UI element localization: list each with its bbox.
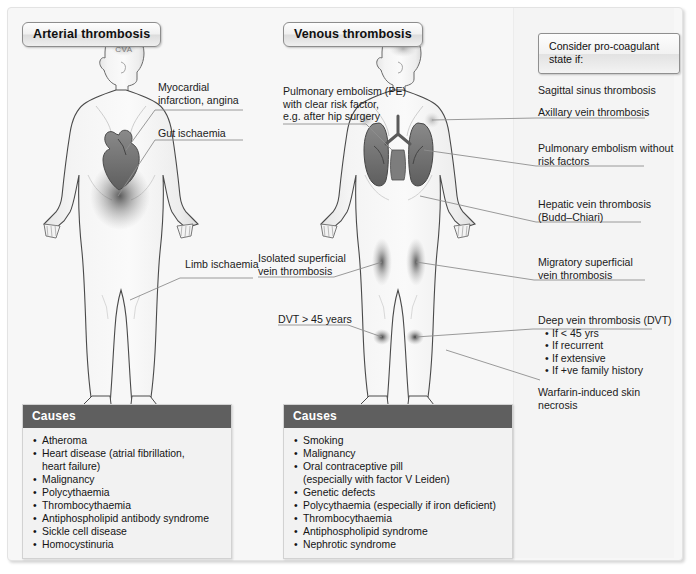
label-warfarin-induced-skin-necrosis: Warfarin-induced skin necrosis (538, 386, 640, 411)
causes-item: Oral contraceptive pill (294, 460, 506, 473)
dvt-list-item: If +ve family history (545, 364, 672, 377)
causes-item: Homocystinuria (33, 538, 225, 551)
causes-venous-list: Smoking Malignancy Oral contraceptive pi… (294, 434, 506, 551)
dvt-list: If < 45 yrs If recurrent If extensive If… (538, 327, 672, 377)
causes-arterial-body: Atheroma Heart disease (atrial fibrillat… (23, 428, 231, 558)
diagram-root: CVA (0, 0, 696, 574)
causes-item: Antiphospholipid antibody syndrome (33, 512, 225, 525)
dvt-list-item: If recurrent (545, 339, 672, 352)
causes-item: Malignancy (294, 447, 506, 460)
label-hepatic-vein-thrombosis: Hepatic vein thrombosis (Budd–Chiari) (538, 198, 651, 223)
header-arterial-thrombosis: Arterial thrombosis (22, 22, 161, 47)
header-venous-thrombosis: Venous thrombosis (283, 22, 423, 47)
dvt-block: Deep vein thrombosis (DVT) If < 45 yrs I… (538, 314, 672, 377)
label-migratory-superficial-vein-thrombosis: Migratory superficial vein thrombosis (538, 256, 633, 281)
label-pulmonary-embolism-without-risk: Pulmonary embolism without risk factors (538, 142, 673, 167)
causes-item: Sickle cell disease (33, 525, 225, 538)
causes-item: Smoking (294, 434, 506, 447)
causes-item-continuation: (especially with factor V Leiden) (294, 473, 506, 486)
causes-item: Thrombocythaemia (33, 499, 225, 512)
causes-arterial-title: Causes (23, 405, 231, 428)
causes-item: Genetic defects (294, 486, 506, 499)
label-limb-ischaemia: Limb ischaemia (185, 258, 259, 271)
causes-item: Atheroma (33, 434, 225, 447)
causes-arterial-list: Atheroma Heart disease (atrial fibrillat… (33, 434, 225, 551)
causes-box-venous: Causes Smoking Malignancy Oral contracep… (283, 404, 513, 559)
dvt-list-item: If < 45 yrs (545, 327, 672, 340)
dvt-heading: Deep vein thrombosis (DVT) (538, 314, 672, 327)
causes-item: Thrombocythaemia (294, 512, 506, 525)
causes-venous-body: Smoking Malignancy Oral contraceptive pi… (284, 428, 512, 558)
causes-item: Heart disease (atrial fibrillation, (33, 447, 225, 460)
causes-venous-title: Causes (284, 405, 512, 428)
label-sagittal-sinus-thrombosis: Sagittal sinus thrombosis (538, 84, 656, 97)
label-myocardial-infarction: Myocardial infarction, angina (158, 81, 239, 106)
causes-item: Antiphospholipid syndrome (294, 525, 506, 538)
label-pulmonary-embolism-with-risk: Pulmonary embolism (PE) with clear risk … (283, 85, 406, 123)
causes-item: Nephrotic syndrome (294, 538, 506, 551)
causes-item-continuation: heart failure) (33, 460, 225, 473)
label-gut-ischaemia: Gut ischaemia (158, 127, 226, 140)
causes-item: Polycythaemia (especially if iron defici… (294, 499, 506, 512)
label-isolated-superficial-vein-thrombosis: Isolated superficial vein thrombosis (258, 252, 346, 277)
causes-box-arterial: Causes Atheroma Heart disease (atrial fi… (22, 404, 232, 559)
causes-item: Polycythaemia (33, 486, 225, 499)
dvt-list-item: If extensive (545, 352, 672, 365)
label-axillary-vein-thrombosis: Axillary vein thrombosis (538, 106, 649, 119)
label-dvt-over-45-years: DVT > 45 years (278, 313, 352, 326)
consider-pro-coagulant-box: Consider pro-coagulant state if: (538, 33, 680, 74)
causes-item: Malignancy (33, 473, 225, 486)
